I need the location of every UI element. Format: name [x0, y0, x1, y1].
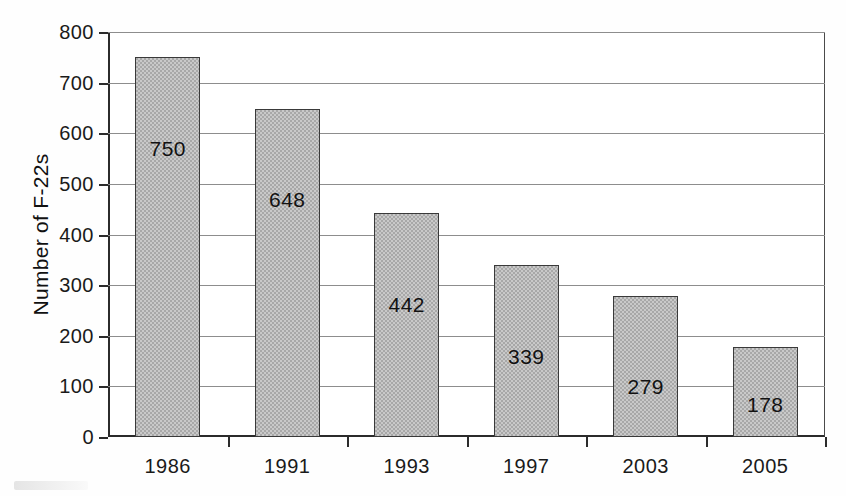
y-tick-label: 0: [82, 426, 94, 449]
gridline: [108, 184, 825, 185]
y-tick-label: 400: [59, 223, 94, 246]
y-tick-mark: [99, 285, 108, 287]
bar-value-label: 648: [269, 188, 306, 212]
y-tick-label: 300: [59, 274, 94, 297]
plot-area: 0100200300400500600700800 19861991199319…: [108, 32, 825, 437]
x-tick-mark: [586, 437, 588, 447]
y-tick-label: 600: [59, 122, 94, 145]
scan-artifact: [14, 481, 88, 490]
bar-value-label: 442: [388, 293, 425, 317]
x-tick-label: 2005: [742, 455, 789, 478]
x-tick-label: 1993: [384, 455, 431, 478]
y-tick-mark: [99, 336, 108, 338]
x-tick-label: 1986: [145, 455, 192, 478]
x-tick-label: 1991: [264, 455, 311, 478]
y-tick-label: 100: [59, 375, 94, 398]
y-tick-mark: [99, 235, 108, 237]
x-tick-mark: [347, 437, 349, 447]
bar-value-label: 750: [149, 137, 186, 161]
y-tick-label: 800: [59, 21, 94, 44]
bar-value-label: 279: [627, 375, 664, 399]
gridline: [108, 133, 825, 134]
gridline: [108, 83, 825, 84]
bar[interactable]: 178: [733, 347, 798, 437]
y-tick-mark: [99, 437, 108, 439]
bar[interactable]: 648: [255, 109, 320, 437]
x-tick-mark: [228, 437, 230, 447]
y-tick-mark: [99, 32, 108, 34]
x-tick-mark: [467, 437, 469, 447]
x-tick-label: 2003: [623, 455, 670, 478]
x-tick-label: 1997: [503, 455, 550, 478]
bar[interactable]: 279: [613, 296, 678, 437]
bar[interactable]: 442: [374, 213, 439, 437]
bar-chart-figure: Number of F-22s 010020030040050060070080…: [0, 0, 846, 496]
bar-value-label: 339: [508, 345, 545, 369]
y-tick-mark: [99, 83, 108, 85]
bar[interactable]: 339: [494, 265, 559, 437]
y-tick-label: 500: [59, 172, 94, 195]
gridline: [108, 386, 825, 387]
y-tick-label: 700: [59, 71, 94, 94]
x-tick-mark: [706, 437, 708, 447]
y-tick-mark: [99, 133, 108, 135]
gridline: [108, 336, 825, 337]
y-tick-label: 200: [59, 324, 94, 347]
gridline: [108, 235, 825, 236]
y-tick-mark: [99, 184, 108, 186]
gridline: [108, 32, 825, 33]
y-axis-title: Number of F-22s: [26, 32, 56, 437]
x-tick-mark: [825, 437, 827, 447]
gridline: [108, 285, 825, 286]
y-tick-mark: [99, 386, 108, 388]
bar-value-label: 178: [747, 393, 784, 417]
bar[interactable]: 750: [135, 57, 200, 437]
